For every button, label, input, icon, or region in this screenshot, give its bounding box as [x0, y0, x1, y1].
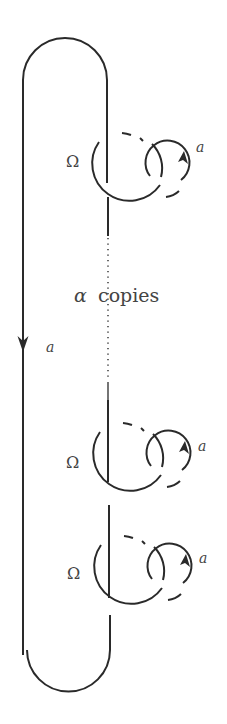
omega-label-3: Ω — [67, 564, 80, 583]
copies-label: copies — [98, 284, 159, 306]
main-strand — [23, 38, 110, 692]
omega-label-2: Ω — [66, 453, 79, 472]
loop-label-a-2: a — [198, 438, 206, 454]
surgery-diagram: a α copies Ω a Ω a Ω a — [0, 0, 227, 724]
strand-label-a: a — [46, 339, 54, 355]
omega-label-1: Ω — [66, 152, 79, 171]
alpha-symbol: α — [74, 284, 87, 306]
loop-label-a-3: a — [199, 550, 207, 566]
loop-label-a-1: a — [196, 139, 204, 155]
